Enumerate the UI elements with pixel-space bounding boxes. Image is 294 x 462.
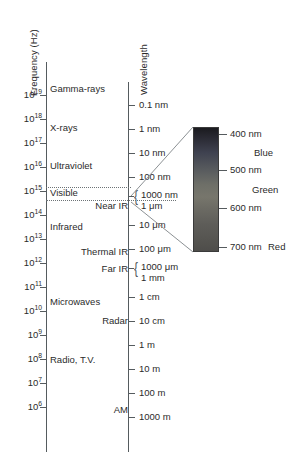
wavelength-tick: [128, 393, 135, 394]
wavelength-tick: [128, 345, 135, 346]
band-label-x-rays: X-rays: [50, 123, 77, 133]
wavelength-axis-line: [128, 82, 129, 452]
wavelength-tick: [128, 105, 135, 106]
band-label-microwaves: Microwaves: [50, 297, 100, 307]
wavelength-tick: [128, 369, 135, 370]
frequency-tick-label: 1017: [24, 138, 42, 148]
frequency-tick-label: 1012: [24, 258, 42, 268]
electromagnetic-spectrum-diagram: Frequency (Hz) Wavelength 1019 1018 1017…: [0, 0, 294, 462]
wavelength-tick-label: 1 μm: [141, 201, 178, 212]
brace-1000nm-1um: {: [134, 188, 138, 205]
frequency-axis-line: [46, 62, 47, 452]
wavelength-tick: [128, 249, 135, 250]
wavelength-tick-label: 100 μm: [139, 244, 171, 254]
band-label-radio-tv: Radio, T.V.: [50, 355, 95, 365]
frequency-tick-label: 1015: [24, 186, 42, 196]
frequency-tick-label: 1018: [24, 114, 42, 124]
wavelength-tick-label: 1000 m: [139, 412, 171, 422]
band-label-gamma-rays: Gamma-rays: [50, 84, 105, 94]
wavelength-tick: [128, 297, 135, 298]
color-label-red: Red: [268, 242, 285, 252]
band-label-thermal-ir: Thermal IR: [81, 247, 128, 257]
wavelength-tick-label: 1 nm: [139, 124, 160, 134]
wavelength-tick: [128, 225, 135, 226]
visible-band-guide-top: [46, 187, 131, 188]
band-label-am: AM: [114, 405, 128, 415]
wavelength-tick: [128, 321, 135, 322]
band-label-ultraviolet: Ultraviolet: [50, 161, 92, 171]
wavelength-tick-label: 10 μm: [139, 220, 166, 230]
callout-line-top: [131, 127, 193, 196]
band-label-visible: Visible: [50, 188, 78, 198]
wavelength-tick-label: 10 cm: [139, 316, 165, 326]
spectrum-tick: [219, 134, 227, 135]
wavelength-tick-label: 1 mm: [141, 273, 178, 284]
wavelength-tick-label: 0.1 nm: [139, 100, 168, 110]
band-label-near-ir: Near IR: [95, 201, 128, 211]
wavelength-tick-label: 100 m: [139, 388, 165, 398]
spectrum-label-500nm: 500 nm: [230, 165, 262, 175]
color-label-blue: Blue: [254, 148, 273, 158]
wavelength-tick-label: 10 nm: [139, 148, 165, 158]
band-label-far-ir: Far IR: [102, 264, 128, 274]
visible-spectrum-bar: [193, 127, 219, 252]
frequency-tick-label: 107: [28, 378, 42, 388]
wavelength-tick-label: 100 nm: [139, 172, 171, 182]
band-label-infrared: Infrared: [50, 222, 83, 232]
spectrum-label-600nm: 600 nm: [230, 203, 262, 213]
frequency-tick-label: 1014: [24, 210, 42, 220]
frequency-tick-label: 1011: [24, 282, 42, 292]
spectrum-tick: [219, 208, 227, 209]
band-label-radar: Radar: [102, 316, 128, 326]
wavelength-tick-label: 1000 μm: [141, 262, 178, 273]
spectrum-label-700nm: 700 nm: [230, 242, 262, 252]
frequency-tick-label: 1013: [24, 234, 42, 244]
frequency-tick-label: 108: [28, 354, 42, 364]
wavelength-tick: [128, 177, 135, 178]
frequency-tick-label: 109: [28, 330, 42, 340]
wavelength-tick-label: 10 m: [139, 364, 160, 374]
wavelength-tick-label: 1 cm: [139, 292, 160, 302]
spectrum-tick: [219, 170, 227, 171]
frequency-tick-label: 1010: [24, 306, 42, 316]
frequency-tick-label: 106: [28, 402, 42, 412]
wavelength-tick-label: 1000 nm: [141, 190, 178, 201]
visible-band-guide-bottom: [46, 200, 176, 201]
spectrum-label-400nm: 400 nm: [230, 129, 262, 139]
spectrum-tick: [219, 247, 227, 248]
color-label-green: Green: [252, 185, 278, 195]
wavelength-axis-title: Wavelength: [138, 44, 149, 95]
frequency-tick-label: 1016: [24, 162, 42, 172]
wavelength-tick: [128, 129, 135, 130]
wavelength-tick: [128, 153, 135, 154]
wavelength-dual-label: 1000 μm 1 mm: [141, 262, 178, 283]
wavelength-tick-label: 1 m: [139, 340, 155, 350]
brace-1000um-1mm: {: [134, 260, 138, 277]
wavelength-tick: [128, 417, 135, 418]
frequency-tick-label: 1019: [24, 90, 42, 100]
frequency-axis-title: Frequency (Hz): [28, 29, 39, 96]
